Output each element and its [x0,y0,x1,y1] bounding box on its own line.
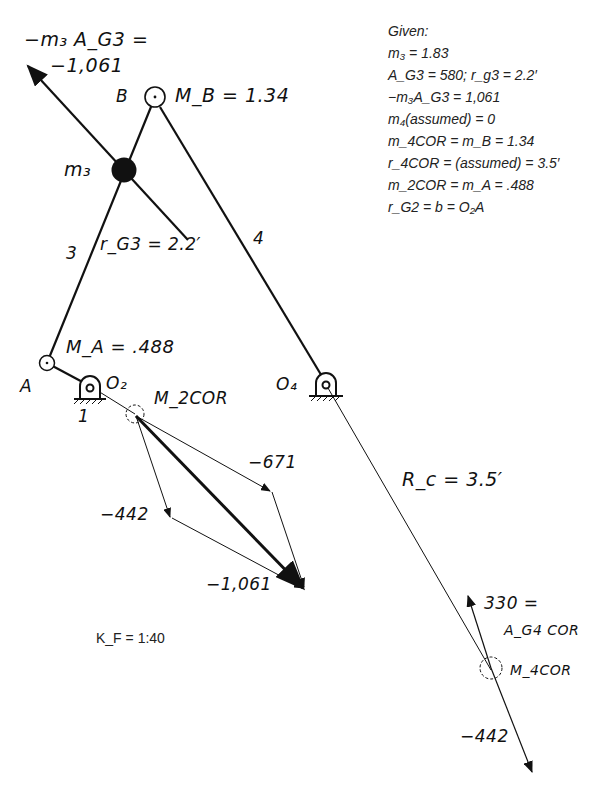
mass-a-label: M_A = .488 [66,336,174,357]
force-scale: K_F = 1:40 [96,630,165,646]
m2cor-label: M_2COR [154,388,228,408]
point-b-label: B [116,86,128,106]
mass-b-label: M_B = 1.34 [175,84,289,106]
a4cor-label: A_G4 COR [504,622,579,638]
rc-label: R_c = 3.5′ [402,468,503,490]
value-442-m4: −442 [460,726,509,746]
mass-3-label: m₃ [64,158,91,180]
link-4-label: 4 [253,228,264,248]
given-line: m₄(assumed) = 0 [388,108,559,130]
rc-line [328,388,491,670]
inertia-force-value: −1,061 [50,54,123,76]
given-line: −m₃A_G3 = 1,061 [388,86,559,108]
given-line: m_2COR = m_A = .488 [388,174,559,196]
vector-442 [136,416,170,517]
a4cor-value: 330 = [484,593,539,613]
given-block: Given: m₃ = 1.83 A_G3 = 580; r_g3 = 2.2′… [388,20,559,218]
pivot-o2-label: O₂ [106,373,127,393]
inertia-force-label: −m₃ A_G3 = [24,28,148,50]
m4cor-label: M_4COR [510,662,572,678]
given-line: r_4COR = (assumed) = 3.5′ [388,152,559,174]
given-title: Given: [388,20,559,42]
given-line: A_G3 = 580; r_g3 = 2.2′ [388,64,559,86]
vector-442-m4 [491,668,532,772]
given-line: m_4COR = m_B = 1.34 [388,130,559,152]
value-671: −671 [248,452,297,472]
mass-3-dot [112,158,137,183]
value-1061: −1,061 [206,574,272,594]
point-a-label: A [20,376,32,396]
link-3 [47,97,155,363]
ground-pivot-o4 [309,373,343,401]
r-g3-label: r_G3 = 2.2′ [100,234,201,254]
given-line: m₃ = 1.83 [388,42,559,64]
ground-1-label: 1 [78,406,89,426]
link-3-label: 3 [66,243,77,263]
pivot-o4-label: O₄ [276,374,297,394]
value-442: −442 [100,504,149,524]
resultant-1061 [136,416,303,588]
given-line: r_G2 = b = O₂A [388,196,559,218]
